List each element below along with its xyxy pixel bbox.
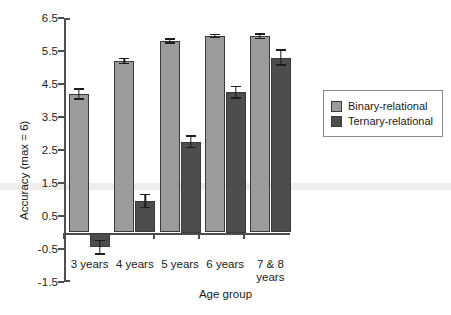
legend-label-binary: Binary-relational: [348, 100, 427, 112]
y-tick: [58, 281, 64, 283]
legend-label-ternary: Ternary-relational: [348, 115, 433, 127]
y-tick-label: -0.5: [38, 243, 58, 255]
legend-swatch-binary-icon: [331, 101, 342, 112]
bar-binary: [205, 36, 225, 232]
y-tick-label: -1.5: [38, 276, 58, 288]
error-bar: [255, 33, 265, 39]
y-tick-label: 3.5: [42, 111, 58, 123]
y-tick: [58, 116, 64, 118]
error-bar: [140, 194, 150, 209]
x-axis-title: Age group: [0, 288, 451, 300]
bar-ternary: [226, 92, 246, 232]
bar-binary: [69, 94, 89, 233]
x-group-label: 4 years: [116, 258, 154, 271]
error-bar: [210, 34, 220, 39]
x-tick: [198, 233, 200, 239]
y-axis-title: Accuracy (max = 6): [18, 121, 30, 220]
x-tick: [63, 233, 65, 239]
legend: Binary-relational Ternary-relational: [323, 90, 443, 137]
error-bar: [95, 240, 105, 255]
y-axis-line: [64, 18, 66, 282]
y-tick: [58, 83, 64, 85]
y-tick-label: 2.5: [42, 144, 58, 156]
y-axis-bottom-cap: [64, 280, 70, 282]
plot-area: [64, 18, 290, 282]
bar-binary: [160, 41, 180, 232]
error-bar: [165, 38, 175, 43]
y-tick: [58, 248, 64, 250]
error-bar: [74, 88, 84, 99]
y-tick-label: 6.5: [42, 12, 58, 24]
legend-item-ternary: Ternary-relational: [331, 115, 433, 127]
bar-binary: [114, 61, 134, 233]
y-tick-label: 5.5: [42, 45, 58, 57]
y-tick: [58, 182, 64, 184]
y-tick-label: 0.5: [42, 210, 58, 222]
x-tick: [153, 233, 155, 239]
error-bar: [276, 49, 286, 66]
bar-binary: [250, 36, 270, 232]
legend-item-binary: Binary-relational: [331, 100, 433, 112]
y-tick-label: 1.5: [42, 177, 58, 189]
x-group-label: 7 & 8 years: [256, 258, 284, 284]
x-group-label: 6 years: [206, 258, 244, 271]
y-tick: [58, 215, 64, 217]
y-tick: [58, 149, 64, 151]
y-tick: [58, 50, 64, 52]
y-axis-top-cap: [64, 18, 70, 20]
error-bar: [231, 86, 241, 99]
error-bar: [186, 135, 196, 148]
x-group-label: 5 years: [161, 258, 199, 271]
bar-ternary: [271, 58, 291, 233]
bar-ternary: [181, 142, 201, 233]
x-group-label: 3 years: [71, 258, 109, 271]
x-tick: [243, 233, 245, 239]
error-bar: [119, 58, 129, 65]
bar-chart: 6.55.54.53.52.51.50.5-0.5-1.5 Accuracy (…: [0, 0, 451, 315]
y-tick-label: 4.5: [42, 78, 58, 90]
y-tick: [58, 17, 64, 19]
legend-swatch-ternary-icon: [331, 116, 342, 127]
